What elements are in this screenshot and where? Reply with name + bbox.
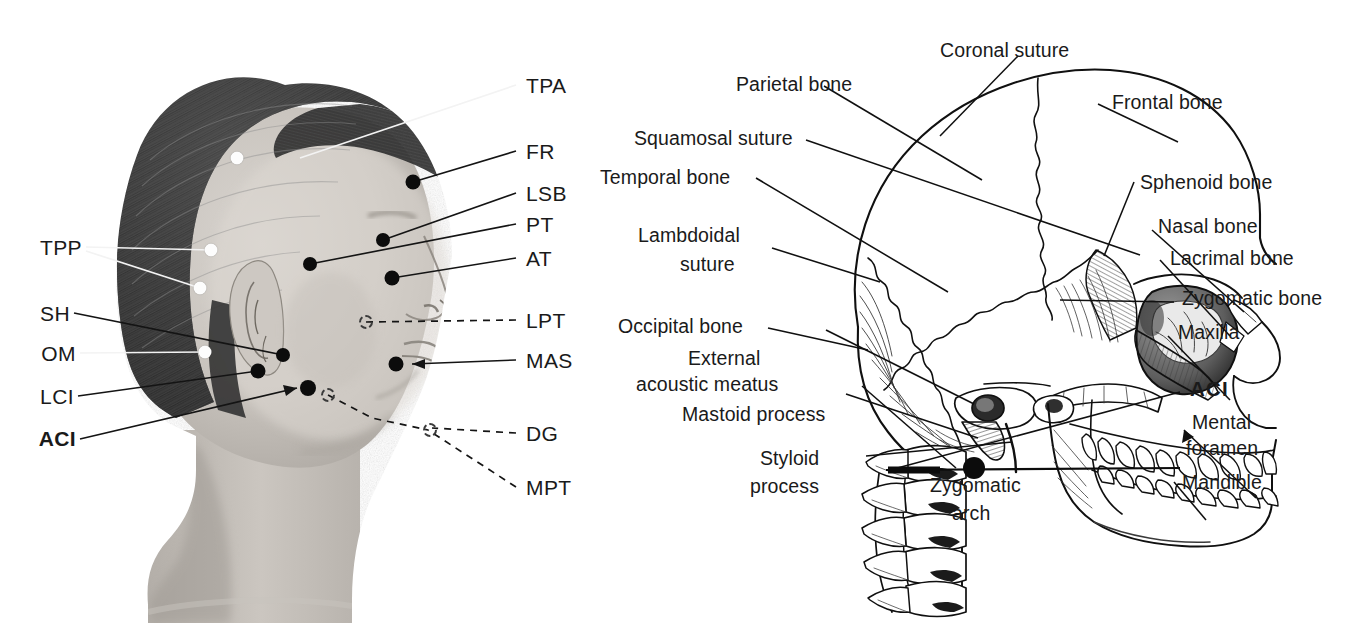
label-styloid-process-line2: process <box>750 476 819 498</box>
label-at: AT <box>526 247 552 271</box>
anatomy-figure: TPP SH OM LCI ACI TPA FR LSB PT AT LPT M… <box>0 0 1369 623</box>
label-tpp: TPP <box>0 236 82 260</box>
marker-lsb <box>376 233 390 247</box>
label-fr: FR <box>526 140 555 164</box>
label-mandible: Mandible <box>1182 472 1262 494</box>
marker-mas <box>389 357 404 372</box>
styloid-process <box>1006 424 1016 472</box>
marker-dg-posterior <box>321 388 335 402</box>
label-zygomatic-arch-line1: Zygomatic <box>930 475 1021 497</box>
label-sphenoid-bone: Sphenoid bone <box>1140 172 1273 194</box>
label-frontal-bone: Frontal bone <box>1112 92 1223 114</box>
label-mastoid-process: Mastoid process <box>682 404 825 426</box>
label-mental-foramen-line1: Mental <box>1192 412 1251 434</box>
marker-fr <box>406 175 421 190</box>
marker-sh <box>276 348 290 362</box>
marker-lci <box>251 364 266 379</box>
label-tpa: TPA <box>526 74 566 98</box>
label-dg: DG <box>526 422 558 446</box>
marker-tpp-upper <box>205 244 218 257</box>
label-mental-foramen-line2: foramen <box>1186 438 1258 460</box>
marker-pt <box>303 257 317 271</box>
label-lci: LCI <box>0 385 74 409</box>
head-photograph <box>117 71 450 623</box>
label-parietal-bone: Parietal bone <box>736 74 852 96</box>
marker-tpa <box>231 152 244 165</box>
label-mas: MAS <box>526 349 573 373</box>
photograph-panel: TPP SH OM LCI ACI TPA FR LSB PT AT LPT M… <box>0 0 640 623</box>
marker-om <box>199 346 212 359</box>
label-occipital-bone: Occipital bone <box>618 316 743 338</box>
aci-rule <box>886 468 1180 470</box>
label-lacrimal-bone: Lacrimal bone <box>1170 248 1294 270</box>
label-maxilla: Maxilla <box>1178 322 1239 344</box>
marker-dg-anterior <box>423 423 437 437</box>
skull-panel: Parietal bone Squamosal suture Temporal … <box>640 0 1369 623</box>
marker-at <box>385 271 400 286</box>
label-om: OM <box>0 342 76 366</box>
label-squamosal-suture: Squamosal suture <box>634 128 793 150</box>
label-nasal-bone: Nasal bone <box>1158 216 1258 238</box>
label-external-acoustic-meatus-line1: External <box>688 348 760 370</box>
label-coronal-suture: Coronal suture <box>940 40 1069 62</box>
marker-lpt <box>359 315 373 329</box>
facial-profile <box>1234 322 1280 383</box>
label-lambdoidal-suture-line1: Lambdoidal <box>638 225 740 247</box>
label-lsb: LSB <box>526 182 567 206</box>
label-lpt: LPT <box>526 309 566 333</box>
marker-tpp-lower <box>194 282 207 295</box>
label-pt: PT <box>526 213 554 237</box>
label-lambdoidal-suture-line2: suture <box>680 254 735 276</box>
label-zygomatic-arch-line2: arch <box>952 503 990 525</box>
label-zygomatic-bone: Zygomatic bone <box>1182 288 1322 310</box>
label-external-acoustic-meatus-line2: acoustic meatus <box>636 374 778 396</box>
label-temporal-bone: Temporal bone <box>600 167 730 189</box>
label-mpt: MPT <box>526 476 572 500</box>
label-styloid-process-line1: Styloid <box>760 448 819 470</box>
label-sh: SH <box>0 302 70 326</box>
label-aci-skull: ACI <box>1190 378 1229 401</box>
label-aci-photo: ACI <box>0 427 76 451</box>
marker-aci-photo <box>300 380 316 396</box>
